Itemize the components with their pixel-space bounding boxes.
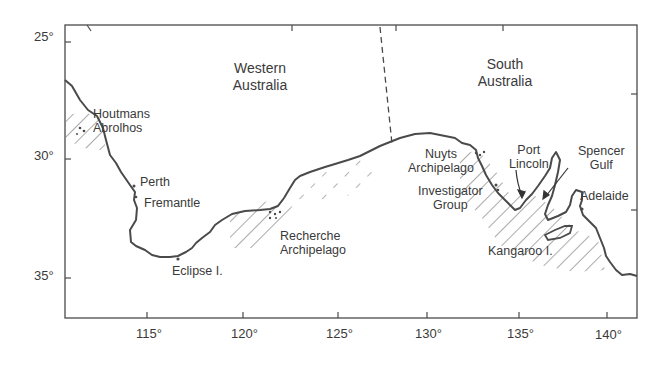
label-line: Lincoln — [509, 157, 549, 171]
label-line: Port — [509, 143, 549, 157]
region-line-2: Australia — [465, 73, 545, 90]
label-eclipse-island: Eclipse I. — [172, 264, 223, 278]
label-line: Group — [418, 198, 483, 212]
lon-tick-135: 135° — [507, 326, 534, 341]
label-line: Abrolhos — [93, 121, 150, 135]
label-line: Spencer — [578, 144, 625, 158]
label-perth: Perth — [140, 175, 170, 189]
label-line: Investigator — [418, 184, 483, 198]
label-line: Archipelago — [280, 243, 346, 257]
pointer-arrows — [516, 168, 568, 199]
lon-tick-115: 115° — [136, 326, 162, 341]
lat-tick-25: 25° — [34, 29, 54, 44]
label-port-lincoln: Port Lincoln — [509, 143, 549, 171]
region-label-south-australia: South Australia — [465, 56, 545, 90]
label-line: Gulf — [578, 158, 625, 172]
label-nuyts-archipelago: Nuyts Archipelago — [408, 147, 474, 175]
map-canvas — [0, 0, 664, 368]
label-houtmans-abrolhos: Houtmans Abrolhos — [93, 107, 150, 135]
label-line: Houtmans — [93, 107, 150, 121]
label-kangaroo-island: Kangaroo I. — [488, 244, 553, 258]
lon-tick-120: 120° — [231, 326, 258, 341]
label-fremantle: Fremantle — [144, 196, 200, 210]
label-spencer-gulf: Spencer Gulf — [578, 144, 625, 172]
label-line: Archipelago — [408, 161, 474, 175]
region-label-western-australia: Western Australia — [200, 60, 320, 94]
region-line-1: South — [465, 56, 545, 73]
label-recherche-archipelago: Recherche Archipelago — [280, 229, 346, 257]
region-line-2: Australia — [200, 77, 320, 94]
region-line-1: Western — [200, 60, 320, 77]
lon-tick-125: 125° — [326, 326, 353, 341]
label-line: Recherche — [280, 229, 346, 243]
label-line: Nuyts — [408, 147, 474, 161]
lon-tick-140: 140° — [595, 327, 622, 342]
label-investigator-group: Investigator Group — [418, 184, 483, 212]
state-border — [380, 27, 392, 144]
lat-tick-30: 30° — [34, 148, 54, 163]
lat-tick-35: 35° — [34, 268, 54, 283]
lon-tick-130: 130° — [415, 326, 442, 341]
label-adelaide: Adelaide — [580, 189, 629, 203]
